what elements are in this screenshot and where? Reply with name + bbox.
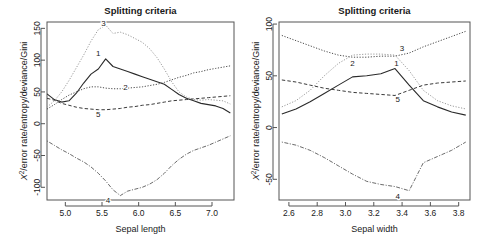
x-axis-label: Sepal width [351,224,398,234]
series-label-4: 4 [396,192,401,201]
series-line-2 [47,66,230,109]
x-tick-label: 3.4 [396,208,408,218]
figure-root: Splitting criteria-100-50050100150X2/err… [0,0,483,250]
x-tick-label: 6.5 [169,208,181,218]
chart-title: Splitting criteria [104,5,177,16]
y-axis-label: X2/error rate/entropy/deviance/Gini [18,42,30,182]
y-tick-label: 150 [32,21,42,35]
x-tick-label: 3.6 [424,208,436,218]
x-tick-label: 3.0 [340,208,352,218]
y-tick-label: 0 [264,125,274,130]
series-label-5: 5 [396,95,401,104]
chart-panel-right: Splitting criteria-50050100X2/error rate… [242,0,483,250]
y-tick-label: -50 [32,149,42,162]
y-tick-label: 0 [32,121,42,126]
plot-frame [47,22,234,200]
chart-svg-left: Splitting criteria-100-50050100150X2/err… [0,0,241,250]
x-tick-label: 5.0 [59,208,71,218]
y-tick-label: 50 [32,87,42,97]
series-line-4 [282,142,466,191]
series-line-5 [47,96,230,110]
y-axis-label: X2/error rate/entropy/deviance/Gini [250,42,262,182]
series-label-2: 2 [123,83,128,92]
series-label-1: 1 [96,49,101,58]
series-label-4: 4 [106,196,111,205]
plot-frame [279,22,470,200]
x-axis-label: Sepal length [115,224,165,234]
x-tick-label: 6.0 [133,208,145,218]
series-label-1: 1 [394,59,399,68]
chart-panel-left: Splitting criteria-100-50050100150X2/err… [0,0,241,250]
y-tick-label: 100 [32,53,42,67]
y-axis: -100-50050100150 [32,21,45,196]
series-label-5: 5 [96,110,101,119]
series-line-5 [282,80,466,96]
x-tick-label: 3.8 [453,208,465,218]
series-label-3: 3 [400,44,405,53]
x-tick-label: 2.8 [311,208,323,218]
series-line-1 [47,59,230,113]
x-tick-label: 3.2 [368,208,380,218]
y-tick-label: 50 [264,71,274,81]
series-line-3 [282,54,466,109]
y-tick-label: -50 [264,173,274,186]
y-tick-label: 100 [264,17,274,31]
x-tick-label: 7.0 [206,208,218,218]
x-tick-label: 5.5 [96,208,108,218]
y-tick-label: -100 [32,179,42,196]
chart-title: Splitting criteria [338,5,411,16]
chart-svg-right: Splitting criteria-50050100X2/error rate… [242,0,483,250]
x-axis: 5.05.56.06.57.0 [59,202,218,218]
x-tick-label: 2.6 [283,208,295,218]
series-label-3: 3 [101,19,106,28]
series-line-4 [47,136,230,196]
series-label-2: 2 [350,59,355,68]
series-line-2 [282,31,466,57]
series-line-1 [282,69,466,116]
plot-area [47,25,230,195]
y-axis: -50050100 [264,17,277,186]
x-axis: 2.62.83.03.23.43.63.8 [283,202,465,218]
plot-area [282,31,466,190]
